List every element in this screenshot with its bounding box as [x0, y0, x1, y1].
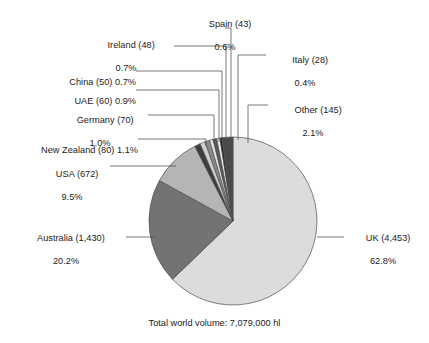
slice-label-uk-line2: 62.8% — [342, 256, 424, 267]
slice-label-australia: Australia (1,430) 20.2% — [6, 222, 126, 289]
slice-label-australia-line1: Australia (1,430) — [37, 233, 105, 243]
slice-label-italy-line2: 0.4% — [268, 78, 342, 89]
slice-label-italy-line1: Italy (28) — [292, 55, 328, 65]
pie-chart-figure: Spain (43) 0.6% Ireland (48) 0.7% China … — [0, 0, 429, 343]
slice-label-usa: USA (672) 9.5% — [34, 158, 110, 225]
slice-label-germany-line1: Germany (70) — [77, 115, 134, 125]
slice-label-uk: UK (4,453) 62.8% — [342, 222, 424, 289]
leader-line-uae — [136, 90, 219, 142]
slice-label-new-zealand-line1: New Zealand (80) 1.1% — [41, 145, 138, 155]
leader-line-other — [248, 105, 268, 143]
slice-label-australia-line2: 20.2% — [6, 256, 126, 267]
slice-label-other-line2: 2.1% — [270, 128, 356, 139]
slice-label-uk-line1: UK (4,453) — [366, 233, 411, 243]
slice-label-usa-line2: 9.5% — [34, 192, 110, 203]
slice-label-spain: Spain (43) 0.6% — [170, 8, 280, 75]
slice-label-other: Other (145) 2.1% — [270, 94, 356, 161]
chart-footnote: Total world volume: 7,079,000 hl — [0, 318, 429, 328]
slice-label-spain-line1: Spain (43) — [209, 19, 252, 29]
pie-slices-group — [149, 137, 317, 305]
leader-line-new-zealand — [138, 139, 206, 146]
slice-label-spain-line2: 0.6% — [170, 42, 280, 53]
slice-label-usa-line1: USA (672) — [56, 169, 99, 179]
slice-label-other-line1: Other (145) — [295, 105, 342, 115]
slice-label-ireland-line1: Ireland (48) — [108, 40, 155, 50]
